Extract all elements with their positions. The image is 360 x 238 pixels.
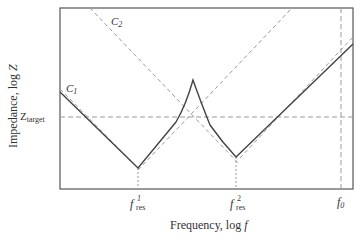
fres1-subscript: res [136,203,145,212]
fres1-superscript: 1 [137,194,141,203]
y-axis-label: Impedance, log Z [6,64,20,148]
ztarget-label: Ztarget [20,110,46,124]
inductive-asymptote-1 [138,8,292,170]
fres2-subscript: res [236,203,245,212]
c1-label: C1 [66,82,77,96]
fres2-label: f [230,197,235,211]
impedance-curve [60,44,353,168]
fres1-label: f [130,197,135,211]
x-axis-label: Frequency, log f [170,218,249,232]
impedance-diagram: C1 C2 Ztarget Impedance, log Z f 1 res f… [0,0,360,238]
fres2-superscript: 2 [237,194,241,203]
f0-label: f0 [337,195,344,210]
c2-label: C2 [111,15,122,29]
inductive-asymptote-2 [240,37,353,158]
